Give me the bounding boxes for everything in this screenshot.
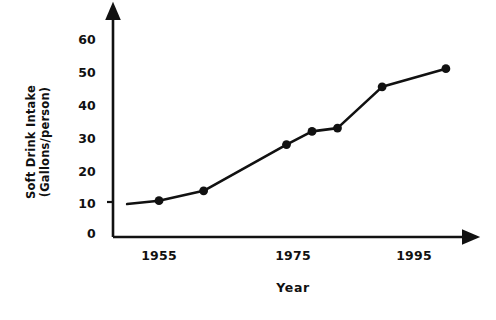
data-point-1962 <box>199 186 208 195</box>
data-point-markers <box>155 64 451 205</box>
chart-figure: Soft Drink Intake (Gallons/person) 60 50… <box>0 0 496 320</box>
data-point-1979 <box>308 127 317 136</box>
data-series-line <box>127 69 446 204</box>
data-point-1990 <box>378 82 387 91</box>
plot-area <box>0 0 496 320</box>
data-point-2000 <box>441 64 450 73</box>
data-point-1955 <box>155 196 164 205</box>
data-point-1975 <box>282 140 291 149</box>
data-point-1983 <box>333 124 342 133</box>
